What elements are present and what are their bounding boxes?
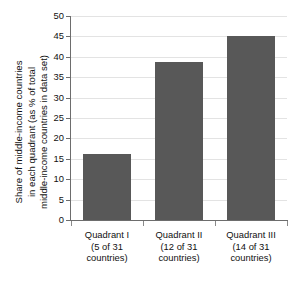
x-tick-mark [215,221,216,226]
x-axis-category-label: Quadrant II(12 of 31countries) [143,229,215,264]
y-tick-label: 25 [38,113,64,122]
x-axis-category-label-line: countries) [143,252,215,264]
x-axis-line [70,220,288,221]
x-axis-category-label-line: Quadrant I [71,229,143,241]
y-tick-label: 45 [38,31,64,40]
x-tick-mark [71,221,72,226]
y-tick-label-wrap: 15 [36,154,64,164]
y-tick-label: 35 [38,72,64,81]
y-tick-label-wrap: 40 [36,52,64,62]
x-tick-mark [143,221,144,226]
y-tick-label-wrap: 30 [36,93,64,103]
y-tick-label: 0 [38,215,64,224]
x-axis-category-label-line: (5 of 31 [71,241,143,253]
bar [227,36,275,220]
y-tick-label-wrap: 10 [36,174,64,184]
y-tick-label: 5 [38,195,64,204]
y-tick-label: 30 [38,93,64,102]
y-tick-label-wrap: 25 [36,113,64,123]
y-tick-label-wrap: 0 [36,215,64,225]
bar [83,154,131,220]
y-axis-title-line-1: Share of middle-income countries [13,61,25,204]
x-axis-category-label: Quadrant III(14 of 31countries) [215,229,287,264]
x-axis-category-label-line: countries) [71,252,143,264]
y-tick-label-wrap: 35 [36,72,64,82]
plot-area [71,16,287,220]
y-tick-label: 15 [38,154,64,163]
x-axis-category-label-line: Quadrant II [143,229,215,241]
x-tick-mark [287,221,288,226]
y-tick-label: 10 [38,174,64,183]
y-tick-label-wrap: 45 [36,31,64,41]
y-tick-label-wrap: 50 [36,11,64,21]
x-axis-category-label-line: countries) [215,252,287,264]
bar [155,62,203,220]
y-tick-label: 50 [38,11,64,20]
x-axis-category-label-line: (14 of 31 [215,241,287,253]
y-tick-label-wrap: 20 [36,133,64,143]
y-tick-label: 20 [38,133,64,142]
x-axis-category-label-line: Quadrant III [215,229,287,241]
gridline [71,16,287,17]
x-axis-category-label: Quadrant I(5 of 31countries) [71,229,143,264]
x-axis-category-label-line: (12 of 31 [143,241,215,253]
y-tick-label: 40 [38,52,64,61]
bar-chart: Share of middle-income countries in each… [0,0,298,281]
y-tick-label-wrap: 5 [36,195,64,205]
y-axis-line [70,16,71,221]
